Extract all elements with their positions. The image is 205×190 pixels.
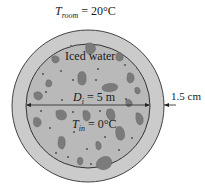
thickness-arrow xyxy=(164,103,176,107)
medium-label: Iced water xyxy=(65,49,115,63)
diameter-label: Di = 5 m xyxy=(72,90,116,106)
inner-temperature-label: Tin = 0°C xyxy=(72,117,117,133)
spherical-tank-diagram: Troom = 20°C Iced water Di = 5 m Tin = 0… xyxy=(0,0,205,190)
thickness-label: 1.5 cm xyxy=(171,90,201,102)
room-temperature-label: Troom = 20°C xyxy=(55,4,116,20)
